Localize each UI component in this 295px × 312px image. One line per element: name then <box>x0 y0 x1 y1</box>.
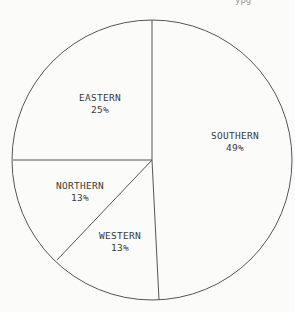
slice-label-northern: NORTHERN 13% <box>40 180 120 204</box>
western-pct: 13% <box>80 242 160 254</box>
slice-label-western: WESTERN 13% <box>80 230 160 254</box>
slice-label-southern: SOUTHERN 49% <box>190 130 280 154</box>
eastern-pct: 25% <box>60 104 140 116</box>
western-name: WESTERN <box>80 230 160 242</box>
northern-pct: 13% <box>40 192 120 204</box>
southern-name: SOUTHERN <box>190 130 280 142</box>
eastern-name: EASTERN <box>60 92 140 104</box>
pie-chart <box>0 0 295 312</box>
slice-label-eastern: EASTERN 25% <box>60 92 140 116</box>
southern-pct: 49% <box>190 142 280 154</box>
northern-name: NORTHERN <box>40 180 120 192</box>
